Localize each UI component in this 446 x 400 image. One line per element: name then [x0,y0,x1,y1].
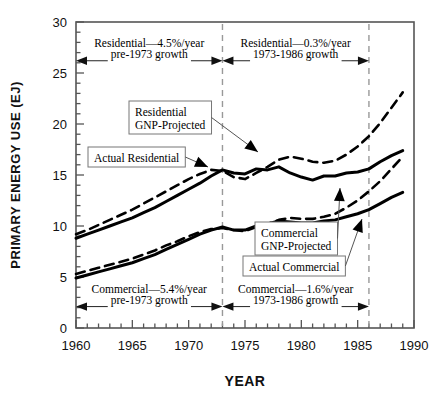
annotation-commercial-pre1973-line2: pre-1973 growth [111,294,188,307]
callout-residential-gnp-projected-line1: Residential [135,106,187,118]
y-tick-label: 10 [53,219,67,234]
y-axis-title: PRIMARY ENERGY USE (EJ) [8,81,23,269]
annotation-commercial-1973-1986-line2: 1973-1986 growth [253,294,339,307]
primary-energy-use-chart: 0510152025301960196519701975198019851990… [0,0,446,400]
x-tick-label: 1985 [343,338,372,353]
callout-actual-commercial-line1: Actual Commercial [249,261,339,273]
callout-commercial-gnp-projected-line1: Commercial [261,227,318,239]
x-tick-label: 1980 [287,338,316,353]
y-tick-label: 5 [60,270,67,285]
x-tick-label: 1975 [231,338,260,353]
x-tick-label: 1960 [62,338,91,353]
callout-actual-residential-line1: Actual Residential [94,152,179,164]
y-tick-label: 25 [53,66,67,81]
callout-residential-gnp-projected-line2: GNP-Projected [135,119,206,132]
y-tick-label: 20 [53,117,67,132]
chart-canvas: 0510152025301960196519701975198019851990… [0,0,446,400]
x-axis-title: YEAR [225,373,266,389]
x-tick-label: 1990 [400,338,429,353]
y-tick-label: 30 [53,15,67,30]
y-tick-label: 0 [60,321,67,336]
annotation-residential-pre1973-line2: pre-1973 growth [111,48,188,61]
x-tick-label: 1965 [118,338,147,353]
annotation-residential-1973-1986-line2: 1973-1986 growth [253,48,339,61]
callout-commercial-gnp-projected-line2: GNP-Projected [261,240,332,253]
x-tick-label: 1970 [174,338,203,353]
y-tick-label: 15 [53,168,67,183]
